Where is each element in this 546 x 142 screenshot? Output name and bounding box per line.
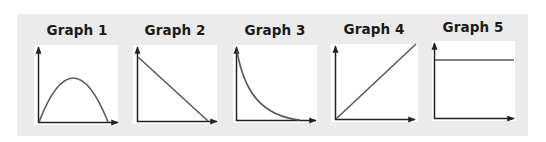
- graph-2: [137, 47, 217, 122]
- graph-1: [38, 47, 118, 123]
- graphs-drawing: [0, 0, 546, 142]
- graph-4-line: [336, 44, 416, 119]
- graph-1-curve: [39, 78, 108, 122]
- graph-3-curve: [237, 51, 300, 120]
- graph-4: [335, 44, 416, 120]
- graph-3: [236, 47, 316, 121]
- graph-5: [434, 43, 514, 119]
- graph-2-line: [138, 57, 208, 121]
